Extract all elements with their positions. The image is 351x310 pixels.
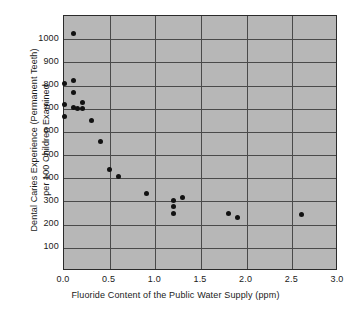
y-axis-tick-label: 300	[25, 196, 59, 205]
gridline-horizontal	[64, 248, 336, 249]
data-point	[226, 211, 231, 216]
gridline-horizontal	[64, 225, 336, 226]
gridline-horizontal	[64, 39, 336, 40]
gridline-horizontal	[64, 62, 336, 63]
gridline-horizontal	[64, 178, 336, 179]
plot-area	[63, 15, 337, 270]
y-axis-tick-label: 400	[25, 173, 59, 182]
data-point	[62, 81, 67, 86]
data-point	[171, 211, 176, 216]
data-point	[80, 106, 85, 111]
data-point	[89, 118, 94, 123]
data-point	[71, 78, 76, 83]
gridline-horizontal	[64, 109, 336, 110]
gridline-vertical	[110, 16, 111, 269]
data-point	[80, 100, 85, 105]
gridline-vertical	[292, 16, 293, 269]
y-axis-tick-label: 800	[25, 80, 59, 89]
y-axis-tick-label: 100	[25, 242, 59, 251]
y-axis-tick-label: 500	[25, 150, 59, 159]
x-axis-tick-label: 2.5	[271, 274, 311, 284]
data-point	[107, 167, 112, 172]
x-axis-tick-label: 1.0	[134, 274, 174, 284]
data-point	[62, 102, 67, 107]
gridline-vertical	[247, 16, 248, 269]
x-axis-tick-label: 2.0	[226, 274, 266, 284]
scatter-chart-figure: Dental Caries Experience (Permanent Teet…	[0, 0, 351, 310]
x-axis-tick-label: 3.0	[317, 274, 351, 284]
x-axis-title: Fluoride Content of the Public Water Sup…	[0, 290, 351, 300]
y-axis-tick-labels: 1002003004005006007008009001000	[22, 15, 59, 270]
x-axis-tick-label: 1.5	[180, 274, 220, 284]
gridline-horizontal	[64, 201, 336, 202]
data-point	[171, 198, 176, 203]
data-point	[71, 31, 76, 36]
data-point	[71, 90, 76, 95]
y-axis-tick-label: 900	[25, 57, 59, 66]
data-point	[235, 215, 240, 220]
gridline-vertical	[155, 16, 156, 269]
y-axis-tick-label: 600	[25, 126, 59, 135]
x-axis-tick-label: 0.0	[43, 274, 83, 284]
y-axis-tick-label: 200	[25, 219, 59, 228]
x-axis-tick-label: 0.5	[89, 274, 129, 284]
y-axis-tick-label: 700	[25, 103, 59, 112]
data-point	[299, 212, 304, 217]
x-axis-tick-labels: 0.00.51.01.52.02.53.0	[63, 274, 337, 288]
data-point	[62, 114, 67, 119]
gridline-horizontal	[64, 132, 336, 133]
y-axis-tick-label: 1000	[25, 34, 59, 43]
data-point	[144, 191, 149, 196]
gridline-horizontal	[64, 86, 336, 87]
gridline-vertical	[201, 16, 202, 269]
gridline-horizontal	[64, 155, 336, 156]
data-point	[180, 195, 185, 200]
data-point	[171, 204, 176, 209]
data-point	[98, 139, 103, 144]
